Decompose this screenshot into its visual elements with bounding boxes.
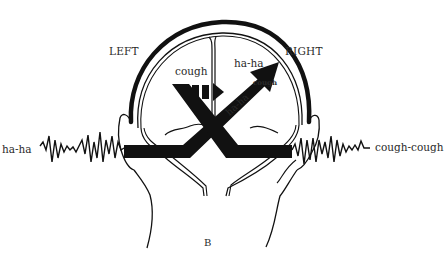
dichotic-listening-diagram: LEFT RIGHT cough ha-ha cough ha-ha ha-ha…: [0, 0, 445, 263]
right-ear-input-label: cough-cough: [375, 142, 443, 153]
left-hemisphere-label: LEFT: [109, 46, 139, 57]
left-hemisphere-word: cough: [175, 66, 207, 77]
right-hemisphere-word: ha-ha: [234, 58, 264, 69]
head-illustration: [0, 0, 445, 263]
arrow-tip-word: cough: [253, 79, 277, 86]
neck-right: [266, 170, 297, 247]
right-inner-lobe: [250, 126, 278, 133]
skull-outline: [131, 22, 309, 122]
panel-label: B: [204, 238, 211, 248]
right-temporal-contour-2: [229, 125, 296, 196]
arrow-right-dashed-icon: [192, 83, 224, 101]
right-temporal-contour: [226, 125, 299, 196]
left-sound-wave: [40, 132, 124, 162]
neck-left: [134, 170, 152, 248]
jaw-right: [277, 160, 296, 183]
left-ear-input-label: ha-ha: [2, 144, 32, 155]
right-hemisphere-label: RIGHT: [285, 46, 323, 57]
right-sound-wave: [292, 136, 370, 164]
